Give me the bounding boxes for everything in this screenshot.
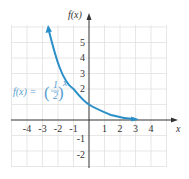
x-axis-arrow-icon bbox=[171, 118, 178, 123]
curve-arrow-right-icon bbox=[131, 117, 139, 122]
svg-text:2: 2 bbox=[118, 123, 123, 134]
x-axis-label: x bbox=[175, 123, 181, 134]
svg-text:-2: -2 bbox=[54, 123, 62, 134]
svg-text:1: 1 bbox=[102, 123, 107, 134]
svg-text:-3: -3 bbox=[38, 123, 46, 134]
svg-text:(: ( bbox=[44, 83, 50, 102]
y-axis-label: f(x) bbox=[68, 9, 83, 21]
equation-label: f(x) = ( 1 2 ) x bbox=[13, 77, 68, 102]
curve-arrow-up-icon bbox=[46, 25, 53, 33]
svg-text:4: 4 bbox=[149, 123, 154, 134]
exponential-curve bbox=[49, 30, 134, 119]
svg-text:x: x bbox=[62, 77, 68, 88]
svg-text:5: 5 bbox=[80, 37, 85, 48]
function-graph: x f(x) -4 -3 -2 -1 1 2 3 4 5 4 3 2 -1 -2… bbox=[0, 0, 189, 179]
x-tick-labels: -4 -3 -2 -1 1 2 3 4 bbox=[23, 123, 154, 134]
svg-text:3: 3 bbox=[133, 123, 138, 134]
svg-text:f(x) =: f(x) = bbox=[13, 86, 36, 98]
svg-text:2: 2 bbox=[80, 83, 85, 94]
svg-text:-1: -1 bbox=[77, 133, 85, 144]
svg-text:4: 4 bbox=[80, 52, 85, 63]
y-axis-arrow-icon bbox=[87, 13, 92, 20]
svg-text:-2: -2 bbox=[77, 149, 85, 160]
svg-text:-4: -4 bbox=[23, 123, 31, 134]
svg-text:3: 3 bbox=[80, 68, 85, 79]
